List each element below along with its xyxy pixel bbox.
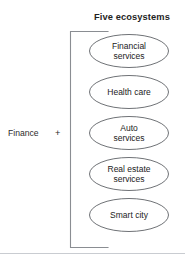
node-ellipse-smart-city (90, 199, 169, 232)
bottom-divider (0, 253, 185, 254)
node-ellipse-auto-services (90, 117, 169, 150)
node-label-smart-city: Smart city (92, 199, 166, 231)
diagram-title: Five ecosystems (86, 12, 178, 23)
node-ellipse-real-estate-services (90, 158, 169, 191)
node-ellipse-health-care (90, 76, 169, 109)
node-ellipse-financial-services (90, 35, 169, 68)
node-label-health-care: Health care (92, 76, 166, 108)
node-label-auto-services: Auto services (92, 117, 166, 149)
bracket-icon (71, 32, 109, 248)
finance-label: Finance (8, 128, 39, 139)
node-label-real-estate-services: Real estate services (92, 158, 166, 190)
node-label-financial-services: Financial services (92, 35, 166, 67)
ecosystem-diagram: Five ecosystems Finance + Financial serv… (0, 0, 185, 259)
plus-operator: + (55, 128, 60, 139)
